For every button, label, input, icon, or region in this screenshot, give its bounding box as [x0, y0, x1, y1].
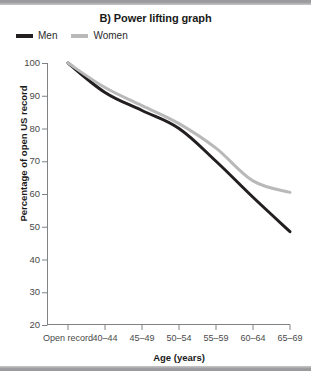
figure-container: B) Power lifting graph Men Women Percent… — [0, 0, 311, 371]
plot-svg — [0, 0, 311, 371]
y-axis-ticks — [42, 64, 48, 326]
x-axis-ticks — [68, 325, 290, 331]
axis-lines — [48, 63, 291, 325]
series-lines — [68, 63, 290, 232]
plot-area: Percentage of open US record Age (years)… — [0, 0, 311, 371]
series-line-men — [68, 63, 290, 232]
